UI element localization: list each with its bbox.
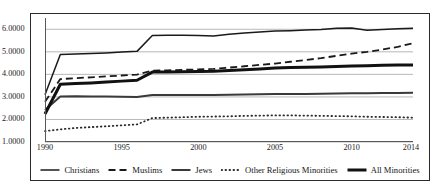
plot-axes: [45, 18, 413, 142]
solid-thick-line-icon: [347, 166, 367, 174]
legend-label: Jews: [195, 165, 212, 175]
y-tick-label: 5.0000: [2, 47, 44, 56]
x-tick-label: 2014: [403, 143, 419, 153]
y-axis-tick-labels: 1.00002.00003.00004.00005.00006.0000: [0, 18, 44, 142]
y-tick-label: 4.0000: [2, 69, 44, 78]
x-tick-label: 2010: [343, 143, 359, 153]
legend-label: Other Religious Minorities: [245, 165, 338, 175]
dotted-line-icon: [221, 166, 241, 174]
legend-label: Christians: [64, 165, 99, 175]
legend-item[interactable]: Other Religious Minorities: [221, 165, 338, 175]
x-axis-tick-labels: 199019952000200520102014: [45, 143, 413, 157]
y-tick-label: 6.0000: [2, 24, 44, 33]
legend-item[interactable]: Jews: [171, 165, 212, 175]
x-tick-label: 2005: [267, 143, 283, 153]
legend-label: Muslims: [132, 165, 162, 175]
x-tick-label: 1990: [37, 143, 53, 153]
legend-item[interactable]: Muslims: [108, 165, 162, 175]
solid-medium-line-icon: [171, 166, 191, 174]
y-tick-label: 2.0000: [2, 114, 44, 123]
line-chart-figure: 1.00002.00003.00004.00005.00006.0000 199…: [0, 0, 435, 194]
legend-item[interactable]: All Minorities: [347, 165, 420, 175]
legend-label: All Minorities: [371, 165, 420, 175]
dashed-line-icon: [108, 166, 128, 174]
solid-thin-line-icon: [40, 166, 60, 174]
chart-legend: ChristiansMuslimsJewsOther Religious Min…: [31, 160, 429, 180]
y-tick-label: 3.0000: [2, 92, 44, 101]
x-tick-label: 1995: [113, 143, 129, 153]
legend-item[interactable]: Christians: [40, 165, 99, 175]
x-tick-label: 2000: [190, 143, 206, 153]
